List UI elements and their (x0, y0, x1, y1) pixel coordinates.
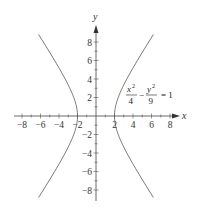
x-tick-label: 4 (131, 120, 136, 130)
x-tick-label: −2 (72, 120, 82, 130)
x-tick-label: 6 (149, 120, 154, 130)
x-tick-label: −6 (35, 120, 45, 130)
eq-den2: 9 (149, 96, 154, 106)
hyperbola-chart: −8−6−4−22468 8642−2−4−6−8 x y x 2 4 − y … (0, 0, 208, 212)
y-tick-label: 2 (87, 93, 92, 103)
x-tick-label: −4 (54, 120, 64, 130)
eq-exp2: 2 (152, 83, 155, 89)
y-tick-label: −2 (82, 130, 92, 140)
x-tick-label: −8 (17, 120, 27, 130)
y-tick-label: 8 (87, 38, 92, 48)
x-tick-label: 8 (168, 120, 173, 130)
eq-num2: y (146, 84, 151, 94)
eq-num1: x (126, 84, 131, 94)
y-tick-label: 6 (87, 56, 92, 66)
equation-annotation: x 2 4 − y 2 9 = 1 (126, 83, 173, 106)
y-tick-label: −6 (82, 167, 92, 177)
y-tick-label: −8 (82, 186, 92, 196)
y-tick-labels: 8642−2−4−6−8 (82, 38, 92, 196)
y-axis-arrow-icon (94, 25, 99, 33)
eq-rhs: = 1 (161, 90, 173, 100)
eq-minus: − (139, 90, 144, 100)
eq-den1: 4 (129, 96, 134, 106)
y-axis-label: y (92, 11, 98, 22)
y-tick-label: −4 (82, 149, 92, 159)
x-axis-label: x (181, 110, 187, 121)
x-axis-arrow-icon (172, 114, 180, 119)
y-tick-label: 4 (87, 75, 92, 85)
eq-exp1: 2 (132, 83, 135, 89)
